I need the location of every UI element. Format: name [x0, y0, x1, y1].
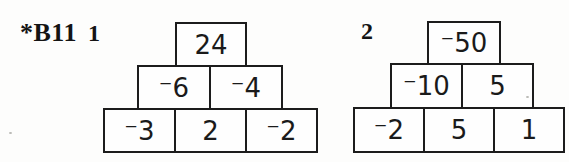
pyramid-cell: ⁻6	[137, 65, 211, 110]
scanned-exercise-page: *B11 1 2 24 ⁻6 ⁻4 ⁻3 2 ⁻2 ⁻50 ⁻10 5 ⁻2 5…	[0, 0, 569, 162]
pyramid-cell: ⁻50	[427, 21, 501, 65]
pyramid-cell: ⁻3	[103, 108, 176, 153]
pyramid-cell: 5	[461, 63, 534, 109]
exercise-label: *B11	[20, 18, 77, 48]
pyramid-cell: 1	[493, 107, 565, 153]
pyramid-cell: 2	[174, 108, 247, 153]
pyramid-cell: ⁻4	[209, 65, 283, 110]
scan-speck	[9, 132, 12, 134]
pyramid-1-row-middle: ⁻6 ⁻4	[137, 65, 283, 110]
number-pyramid-2: ⁻50 ⁻10 5 ⁻2 5 1	[353, 21, 566, 153]
pyramid-cell: ⁻10	[390, 63, 463, 109]
pyramid-2-row-bottom: ⁻2 5 1	[353, 107, 565, 153]
pyramid-2-row-middle: ⁻10 5	[390, 63, 534, 109]
pyramid-cell: ⁻2	[353, 107, 425, 153]
pyramid-cell: ⁻2	[245, 108, 318, 153]
pyramid-1-row-bottom: ⁻3 2 ⁻2	[103, 108, 318, 153]
number-pyramid-1: 24 ⁻6 ⁻4 ⁻3 2 ⁻2	[103, 22, 320, 153]
pyramid-2-row-top: ⁻50	[427, 21, 501, 65]
pyramid-cell: 5	[423, 107, 495, 153]
scan-speck	[526, 96, 529, 98]
problem-number-1: 1	[88, 20, 100, 47]
pyramid-cell: 24	[175, 22, 247, 67]
pyramid-1-row-top: 24	[175, 22, 247, 67]
